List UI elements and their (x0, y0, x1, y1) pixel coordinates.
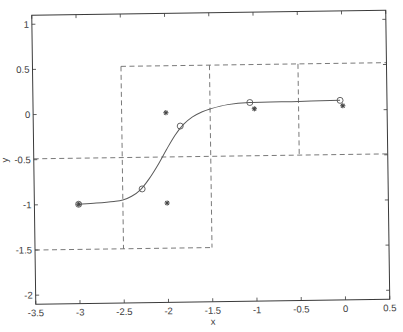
dashed-line-vertical-middle (209, 65, 212, 247)
x-tick-label: -1.5 (205, 305, 222, 316)
y-tick-label: -1 (23, 199, 32, 210)
x-tick-label: -2 (164, 305, 173, 316)
asterisk-marker (164, 200, 169, 205)
y-axis-label: y (0, 157, 10, 162)
y-tick-label: -1.5 (16, 244, 33, 255)
x-tick-label: -0.5 (293, 303, 310, 314)
model-curve (77, 100, 341, 204)
x-tick-label: -3.5 (28, 307, 45, 318)
ticks: -3.5-3-2.5-2-1.5-1-0.500.5-2-1.5-1-0.500… (12, 10, 396, 318)
curve-line (77, 100, 341, 204)
y-tick-label: 0 (25, 109, 30, 120)
asterisk-marker (340, 103, 345, 108)
axes-box (32, 10, 390, 304)
dashed-region-boundaries (32, 63, 389, 250)
asterisk-marker (252, 106, 257, 111)
x-tick-label: 0 (343, 303, 348, 314)
asterisk-marker (163, 110, 168, 115)
x-tick-label: -2.5 (116, 306, 133, 317)
dashed-line-top-boundary (121, 63, 386, 67)
x-tick-label: -1 (253, 304, 262, 315)
y-tick-label: -2 (24, 290, 33, 301)
y-tick-label: -0.5 (14, 154, 31, 165)
axes-group: -3.5-3-2.5-2-1.5-1-0.500.5-2-1.5-1-0.500… (0, 10, 397, 329)
y-tick-label: 0.5 (16, 64, 29, 75)
figure: -3.5-3-2.5-2-1.5-1-0.500.5-2-1.5-1-0.500… (0, 0, 403, 332)
axes-frame (32, 10, 390, 304)
x-tick-label: -3 (76, 307, 85, 318)
y-tick-label: 1 (24, 19, 29, 30)
plot-svg: -3.5-3-2.5-2-1.5-1-0.500.5-2-1.5-1-0.500… (0, 0, 403, 332)
circle-marker (139, 186, 145, 192)
x-axis-label: x (211, 316, 216, 327)
dashed-line-vertical-right (298, 64, 299, 155)
x-tick-label: 0.5 (383, 302, 396, 313)
